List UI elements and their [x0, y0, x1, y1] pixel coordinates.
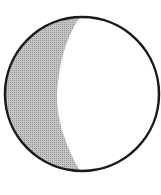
moon-icon: [0, 0, 161, 195]
moon-phase-diagram: [0, 0, 161, 195]
